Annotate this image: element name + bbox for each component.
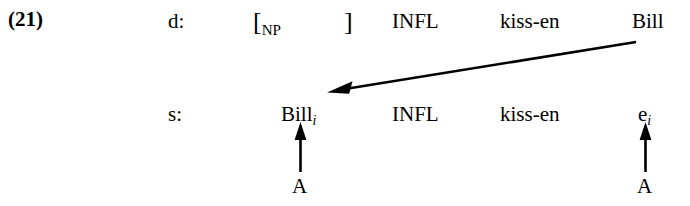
np-category-subscript: NP [262,22,281,38]
operation-arrow-right [640,122,652,172]
derivation-figure: (21) d: [NP ] INFL kiss-en Bill s: Billi… [0,0,690,206]
operation-label-left: A [292,176,307,197]
operation-label-right: A [637,176,652,197]
surface-subject-index: i [313,113,317,128]
deep-structure-infl: INFL [392,11,439,32]
deep-structure-verb: kiss-en [500,11,560,32]
operation-arrow-left [295,122,307,172]
np-bracket-open: [NP [253,9,281,38]
example-number: (21) [8,9,43,30]
surface-structure-verb: kiss-en [500,104,560,125]
trace-text: e [638,102,647,126]
surface-structure-infl: INFL [392,104,439,125]
np-bracket-close: ] [344,9,353,35]
surface-structure-trace: ei [638,104,651,128]
surface-subject-text: Bill [281,102,313,126]
deep-structure-label: d: [168,11,184,32]
deep-structure-subject: Bill [632,11,664,32]
trace-index: i [647,113,651,128]
movement-arrow-diagonal [327,42,636,94]
surface-structure-subject: Billi [281,104,316,128]
bracket-close-glyph: ] [344,7,353,36]
bracket-open-glyph: [ [253,7,262,36]
surface-structure-label: s: [168,104,182,125]
